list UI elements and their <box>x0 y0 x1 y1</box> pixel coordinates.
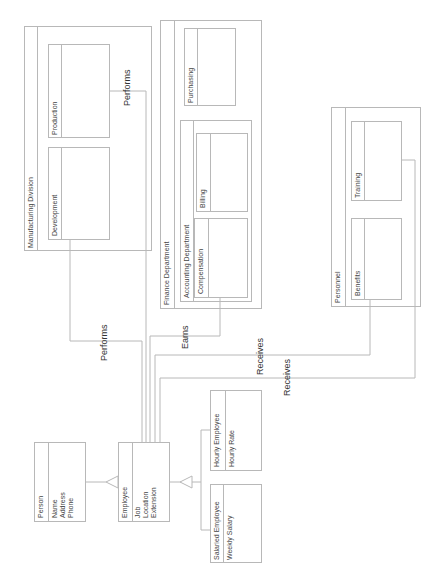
salaried-employee-attributes: Weekly Salary <box>226 515 234 560</box>
person-attr-name: Name <box>51 492 59 518</box>
employee-attributes: Job Location Extension <box>134 487 158 518</box>
accounting-department-label: Accounting Department <box>183 225 191 298</box>
billing-label: Billing <box>199 189 207 208</box>
person-attr-address: Address <box>59 492 67 518</box>
finance-department-label: Finance Department <box>163 242 171 305</box>
employee-attr-extension: Extension <box>150 487 158 518</box>
receives-training-label: Receives <box>282 359 292 396</box>
production-label: Production <box>51 102 59 135</box>
personnel-label: Personnel <box>334 271 342 303</box>
hourly-employee-label: Hourly Employee <box>213 414 221 467</box>
hourly-attr-hourly-rate: Hourly Rate <box>228 430 236 467</box>
hourly-employee-attributes: Hourly Rate <box>228 430 236 467</box>
person-attributes: Name Address Phone <box>51 492 75 518</box>
salaried-attr-weekly-salary: Weekly Salary <box>226 515 234 560</box>
benefits-label: Benefits <box>354 271 362 296</box>
employee-attr-location: Location <box>142 487 150 518</box>
performs-development-label: Performs <box>99 324 109 361</box>
person-attr-phone: Phone <box>67 492 75 518</box>
receives-benefits-label: Receives <box>255 338 265 375</box>
training-label: Training <box>354 173 362 198</box>
employee-label: Employee <box>121 487 129 518</box>
development-label: Development <box>51 195 59 236</box>
salaried-employee-label: Salaried Employee <box>213 501 221 560</box>
earns-label: Earns <box>180 325 190 349</box>
employee-attr-job: Job <box>134 487 142 518</box>
purchasing-label: Purchasing <box>187 68 195 103</box>
manufacturing-division-label: Manufacturing Division <box>27 177 35 248</box>
compensation-label: Compensation <box>197 249 205 294</box>
person-label: Person <box>37 496 45 518</box>
performs-production-label: Performs <box>122 69 132 106</box>
